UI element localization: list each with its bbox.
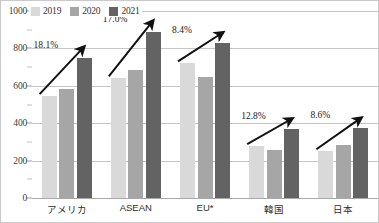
y-axis-tick-label: 200	[13, 156, 27, 166]
y-axis-tick-label: 1000	[9, 6, 27, 16]
bar-2019	[318, 151, 333, 198]
legend-label: 2021	[121, 6, 139, 16]
bar-2020	[267, 150, 282, 198]
x-axis-tick-label: アメリカ	[47, 202, 87, 216]
legend-label: 2020	[82, 6, 100, 16]
bar-2020	[59, 89, 74, 198]
bar-group	[180, 11, 230, 198]
x-axis-tick-label: 韓国	[264, 202, 284, 216]
legend-label: 2019	[43, 6, 61, 16]
y-axis-tick-label: 800	[13, 43, 27, 53]
growth-rate-annotation: 8.6%	[310, 110, 330, 120]
legend-item-2021[interactable]: 2021	[109, 6, 139, 16]
x-axis-tick-label: EU*	[197, 202, 214, 213]
legend-swatch-icon	[31, 7, 40, 16]
growth-rate-annotation: 18.1%	[34, 40, 59, 50]
bar-group	[249, 11, 299, 198]
y-axis-tick-label: 400	[13, 118, 27, 128]
growth-rate-annotation: 8.4%	[172, 25, 192, 35]
y-axis-tick-label: 600	[13, 81, 27, 91]
y-axis: 02004006008001000	[1, 1, 32, 208]
bar-2019	[42, 96, 57, 198]
bar-2020	[128, 70, 143, 198]
legend-item-2020[interactable]: 2020	[70, 6, 100, 16]
bar-2020	[336, 145, 351, 198]
bar-group	[318, 11, 368, 198]
x-axis-tick-label: 日本	[333, 202, 353, 216]
bar-2020	[198, 77, 213, 198]
chart-legend: 201920202021	[29, 5, 142, 17]
bar-2021	[146, 32, 161, 198]
bar-2021	[353, 128, 368, 198]
legend-swatch-icon	[109, 7, 118, 16]
y-axis-tick-label: 0	[22, 193, 27, 203]
bar-2019	[180, 63, 195, 198]
bar-chart: 02004006008001000 アメリカASEANEU*韓国日本 20192…	[0, 0, 379, 223]
gridline	[32, 198, 378, 199]
bar-group	[111, 11, 161, 198]
legend-swatch-icon	[70, 7, 79, 16]
bar-2021	[77, 58, 92, 198]
bar-2019	[249, 146, 264, 198]
bar-2019	[111, 78, 126, 198]
bar-2021	[215, 43, 230, 198]
plot-area	[32, 11, 378, 198]
x-axis: アメリカASEANEU*韓国日本	[32, 200, 378, 222]
x-axis-tick-label: ASEAN	[120, 202, 152, 213]
growth-rate-annotation: 12.8%	[241, 111, 266, 121]
legend-item-2019[interactable]: 2019	[31, 6, 61, 16]
bar-2021	[284, 129, 299, 198]
